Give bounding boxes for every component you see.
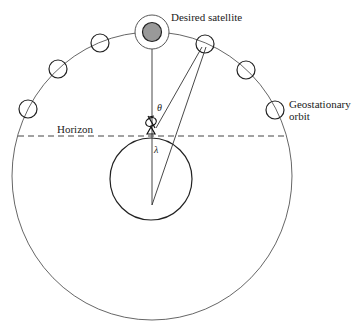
- satellite-icon: [266, 101, 284, 119]
- desired-satellite-label: Desired satellite: [171, 11, 242, 23]
- earth-circle: [110, 138, 192, 220]
- theta-symbol: θ: [157, 102, 162, 113]
- geostationary-diagram: Desired satellite Horizon Geostationary …: [0, 0, 356, 330]
- satellite-icon: [91, 34, 109, 52]
- earth-station-antenna-icon: [144, 116, 157, 134]
- geostationary-orbit-label-line2: orbit: [289, 110, 310, 122]
- satellite-icon: [237, 61, 255, 79]
- line-center-to-adjacent: [152, 47, 206, 205]
- line-antenna-to-adjacent: [156, 47, 202, 128]
- lambda-symbol: λ: [153, 144, 159, 155]
- horizon-label: Horizon: [57, 123, 94, 135]
- desired-satellite-icon: [143, 23, 162, 42]
- geostationary-orbit-label-line1: Geostationary: [289, 98, 351, 110]
